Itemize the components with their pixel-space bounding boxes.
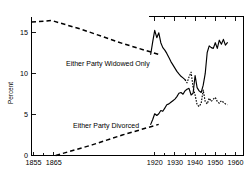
- annotation-widowed-label: Either Party Widowed Only: [66, 60, 150, 68]
- y-axis-title: Percent: [7, 82, 14, 104]
- series-widowed-dashed: [32, 21, 159, 55]
- series-divorced-dashed: [56, 124, 159, 155]
- top-axis-ticks: [155, 17, 236, 21]
- line-chart: 0 5 10 15 Percent: [0, 0, 252, 181]
- series-group: [32, 21, 228, 156]
- annotation-divorced-label: Either Party Divorced: [73, 122, 139, 130]
- y-tick-label-5: 5: [24, 110, 28, 119]
- series-widowed-dotted: [185, 72, 227, 106]
- plot-frame: [32, 17, 244, 156]
- y-tick-label-15: 15: [20, 28, 28, 37]
- x-tick-label-1930: 1930: [167, 158, 183, 167]
- x-tick-label-1920: 1920: [147, 158, 163, 167]
- y-axis-tick-labels: 0 5 10 15: [20, 28, 28, 160]
- chart-container: 0 5 10 15 Percent: [0, 0, 252, 181]
- x-tick-label-1865: 1865: [46, 158, 62, 167]
- series-widowed-solid: [151, 30, 185, 79]
- series-annotations: Either Party Widowed Only Either Party D…: [66, 60, 150, 130]
- x-tick-label-1960: 1960: [228, 158, 244, 167]
- x-tick-label-1950: 1950: [207, 158, 223, 167]
- x-axis-tick-labels: 1855 1865 1920 1930 1940 1950 1960: [26, 158, 244, 167]
- y-axis-ticks: [32, 33, 36, 156]
- series-divorced-solid: [151, 39, 228, 124]
- x-tick-label-1855: 1855: [26, 158, 42, 167]
- y-tick-label-10: 10: [20, 69, 28, 78]
- x-tick-label-1940: 1940: [187, 158, 203, 167]
